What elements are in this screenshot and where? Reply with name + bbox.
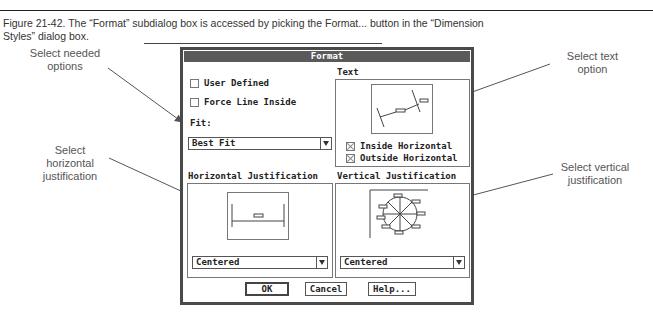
- inside-horizontal-checkbox[interactable]: [346, 142, 355, 151]
- dialog-title: Format: [184, 51, 470, 62]
- arrow-needed-options: [108, 68, 182, 122]
- fit-value: Best Fit: [192, 138, 235, 149]
- dropdown-arrow-icon[interactable]: [316, 257, 327, 268]
- vertical-justification-value: Centered: [344, 257, 387, 268]
- outside-horizontal-checkbox[interactable]: [346, 154, 355, 163]
- horizontal-justification-dropdown[interactable]: Centered: [192, 256, 328, 269]
- vertical-preview: [368, 188, 430, 240]
- cancel-button[interactable]: Cancel: [305, 282, 347, 296]
- help-button[interactable]: Help...: [368, 282, 416, 296]
- text-preview: [371, 84, 433, 134]
- user-defined-label: User Defined: [204, 78, 269, 88]
- outside-horizontal-label: Outside Horizontal: [360, 153, 458, 163]
- text-group: Inside Horizontal Outside Horizontal: [335, 79, 470, 167]
- vertical-justification-label: Vertical Justification: [337, 171, 456, 181]
- ok-button[interactable]: OK: [245, 282, 289, 296]
- user-defined-checkbox[interactable]: [190, 79, 199, 88]
- vertical-justification-group: Centered: [335, 183, 470, 278]
- horizontal-preview: [227, 192, 289, 240]
- vertical-justification-dropdown[interactable]: Centered: [340, 256, 465, 269]
- force-line-inside-label: Force Line Inside: [204, 97, 296, 107]
- force-line-inside-checkbox[interactable]: [190, 98, 199, 107]
- dropdown-arrow-icon[interactable]: [453, 257, 464, 268]
- format-dialog: Format User Defined Force Line Inside Fi…: [180, 47, 474, 305]
- dropdown-arrow-icon[interactable]: [320, 138, 331, 149]
- horizontal-justification-label: Horizontal Justification: [188, 171, 318, 181]
- horizontal-justification-value: Centered: [196, 257, 239, 268]
- fit-label: Fit:: [190, 118, 212, 128]
- horizontal-justification-group: Centered: [187, 183, 333, 278]
- inside-horizontal-label: Inside Horizontal: [360, 141, 452, 151]
- text-group-label: Text: [337, 67, 359, 77]
- fit-dropdown[interactable]: Best Fit: [188, 137, 332, 150]
